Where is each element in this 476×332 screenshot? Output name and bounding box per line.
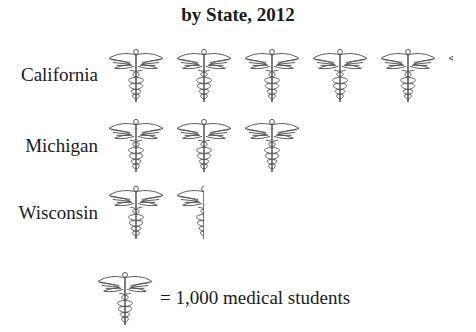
caduceus-icon bbox=[243, 117, 301, 175]
caduceus-icon bbox=[107, 184, 165, 242]
row-label-michigan: Michigan bbox=[0, 135, 98, 157]
caduceus-icon bbox=[175, 117, 233, 175]
caduceus-icon bbox=[243, 47, 301, 105]
legend-text: = 1,000 medical students bbox=[160, 287, 350, 309]
caduceus-icon bbox=[379, 47, 437, 105]
caduceus-icon bbox=[175, 47, 233, 105]
caduceus-icon bbox=[447, 47, 453, 105]
row-label-california: California bbox=[0, 64, 98, 86]
row-label-wisconsin: Wisconsin bbox=[0, 202, 98, 224]
caduceus-icon bbox=[107, 117, 165, 175]
caduceus-icon bbox=[311, 47, 369, 105]
chart-title: by State, 2012 bbox=[0, 4, 476, 26]
caduceus-icon bbox=[175, 184, 204, 242]
caduceus-icon bbox=[107, 47, 165, 105]
legend-caduceus-icon bbox=[96, 270, 154, 328]
